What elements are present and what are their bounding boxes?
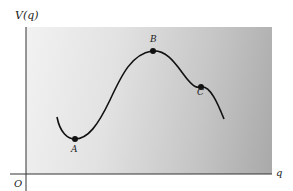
point-a-label: A <box>71 145 78 154</box>
x-axis-label: q <box>276 168 282 178</box>
y-axis-label: V(q) <box>15 10 39 21</box>
point-c-label: C <box>197 88 204 97</box>
point-b-marker <box>150 48 156 54</box>
origin-label: O <box>14 179 22 189</box>
point-b-label: B <box>150 35 157 44</box>
potential-curve-plot <box>0 0 293 191</box>
point-a-marker <box>72 136 78 142</box>
